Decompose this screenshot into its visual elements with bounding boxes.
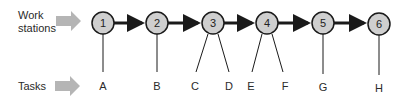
workstation-task-diagram: Work stations Tasks 1 2 3 4 xyxy=(0,0,403,101)
station-node-5: 5 xyxy=(312,12,334,34)
task-label-F: F xyxy=(282,80,289,92)
workstations-label-line1: Work xyxy=(18,9,44,21)
workstations-label-line2: stations xyxy=(18,22,56,34)
task-label-C: C xyxy=(191,80,199,92)
station-number: 1 xyxy=(100,17,106,29)
task-label-H: H xyxy=(375,82,383,94)
task-connectors xyxy=(103,34,379,75)
connector-4-F xyxy=(272,34,283,72)
task-label-G: G xyxy=(319,81,328,93)
task-label-B: B xyxy=(153,80,160,92)
workstations-pointer-arrow-icon xyxy=(56,11,81,31)
station-number: 3 xyxy=(210,17,216,29)
station-node-1: 1 xyxy=(92,12,114,34)
station-number: 5 xyxy=(320,17,326,29)
station-number: 6 xyxy=(376,18,382,30)
station-node-4: 4 xyxy=(256,12,278,34)
tasks-pointer-arrow-icon xyxy=(55,76,80,96)
station-node-6: 6 xyxy=(368,13,390,35)
task-label-D: D xyxy=(225,80,233,92)
station-number: 2 xyxy=(154,17,160,29)
station-number: 4 xyxy=(264,17,270,29)
connector-3-C xyxy=(196,34,208,72)
task-label-E: E xyxy=(247,80,254,92)
tasks-label: Tasks xyxy=(18,80,47,92)
connector-4-E xyxy=(252,34,262,72)
connector-3-D xyxy=(218,34,229,72)
station-node-3: 3 xyxy=(202,12,224,34)
task-label-A: A xyxy=(99,80,107,92)
station-node-2: 2 xyxy=(146,12,168,34)
